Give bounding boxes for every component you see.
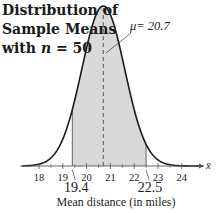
mean-annotation: μ= 20.7 — [129, 19, 170, 33]
chart-title-line-2: Sample Means — [2, 21, 117, 37]
lower-bound-label: 19.4 — [64, 180, 89, 195]
x-tick-label: 18 — [34, 172, 45, 183]
sampling-distribution-chart: x̄1819202122232419.422.5 Distribution of… — [0, 0, 217, 213]
chart-title-line-3: with n = 50 — [1, 40, 92, 56]
x-axis-label: Mean distance (in miles) — [57, 195, 176, 209]
upper-bound-label-leader — [146, 170, 149, 180]
chart-title-line-1: Distribution of — [2, 2, 119, 18]
upper-bound-label: 22.5 — [138, 180, 163, 195]
x-tick-label: 24 — [177, 172, 188, 183]
axis-variable-label: x̄ — [205, 160, 211, 171]
x-tick-label: 21 — [105, 172, 116, 183]
lower-bound-label-leader — [72, 170, 75, 180]
axis-arrow-icon — [199, 164, 204, 169]
